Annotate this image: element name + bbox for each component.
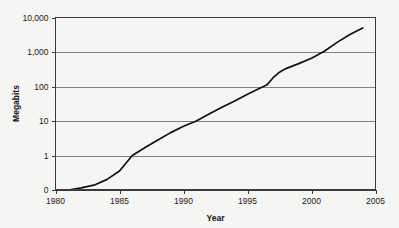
y-axis-tick-label: 1,000 xyxy=(27,47,49,57)
y-axis-tick-label: 10,000 xyxy=(23,13,49,23)
chart-background xyxy=(0,0,399,228)
y-axis-tick-label: 100 xyxy=(34,82,48,92)
x-axis-tick-label: 1995 xyxy=(238,196,257,206)
line-chart: 10,0001,0001001010 198019851990199520002… xyxy=(0,0,399,228)
x-axis-tick-label: 2005 xyxy=(366,196,385,206)
x-axis-tick-label: 1985 xyxy=(110,196,129,206)
x-axis-tick-label: 1990 xyxy=(174,196,193,206)
y-axis-tick-label: 10 xyxy=(39,116,49,126)
y-axis-title: Megabits xyxy=(11,85,21,122)
y-axis-tick-label: 1 xyxy=(44,151,49,161)
x-axis-tick-label: 1980 xyxy=(46,196,65,206)
y-axis-tick-label: 0 xyxy=(44,185,49,195)
x-axis-title: Year xyxy=(207,213,226,223)
x-axis-tick-label: 2000 xyxy=(302,196,321,206)
chart-container: 10,0001,0001001010 198019851990199520002… xyxy=(0,0,399,228)
